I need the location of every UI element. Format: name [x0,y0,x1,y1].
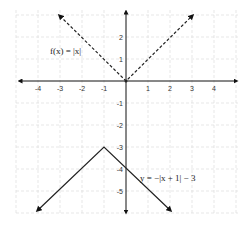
y-tick-label: -3 [117,144,123,151]
y-tick-label: -5 [117,188,123,195]
y-tick-label: -4 [117,166,123,173]
x-tick-label: -3 [57,85,63,92]
x-tick-label: 2 [168,85,172,92]
g-label: y = −|x + 1| − 3 [140,173,196,183]
coordinate-plane: -4-3-2-1123421-1-2-3-4-5 f(x) = |x| y = … [0,0,247,231]
y-tick-label: -2 [117,122,123,129]
f-label: f(x) = |x| [50,46,81,56]
x-tick-label: 4 [212,85,216,92]
x-tick-label: -1 [101,85,107,92]
x-tick-label: -2 [79,85,85,92]
tick-labels: -4-3-2-1123421-1-2-3-4-5 [35,34,216,195]
x-tick-label: -4 [35,85,41,92]
x-tick-label: 3 [190,85,194,92]
grid-lines [16,10,238,214]
y-tick-label: 2 [119,34,123,41]
y-tick-label: 1 [119,56,123,63]
x-tick-label: 1 [146,85,150,92]
y-tick-label: -1 [117,100,123,107]
